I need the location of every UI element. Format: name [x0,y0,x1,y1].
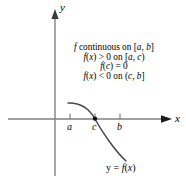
y-axis-arrowhead [51,9,58,19]
condition-line-4: f(x) < 0 on (c, b] [58,72,170,82]
tick-label-b: b [117,122,122,132]
x-axis-label: x [175,113,180,124]
function-graph-figure: y x a c b f continuous on [a, b] f(x) > … [0,0,186,181]
x-axis-arrowhead [161,115,172,123]
graph-canvas [0,0,186,181]
tick-label-c: c [92,122,96,132]
conditions-text-block: f continuous on [a, b] f(x) > 0 on [a, c… [58,43,170,81]
tick-label-a: a [67,122,72,132]
y-axis-label: y [60,2,65,13]
curve-label: y = f(x) [106,163,136,173]
